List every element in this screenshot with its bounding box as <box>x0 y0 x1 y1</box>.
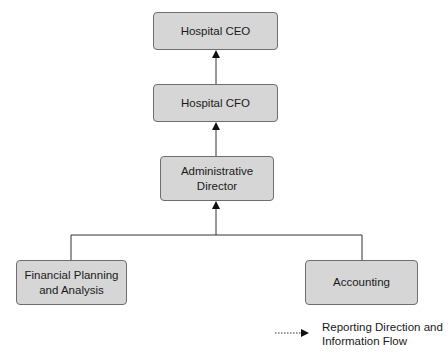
node-administrative-director: Administrative Director <box>160 156 274 201</box>
node-label: Administrative Director <box>175 164 259 194</box>
node-financial-planning: Financial Planning and Analysis <box>16 260 127 305</box>
node-label: Financial Planning and Analysis <box>23 268 120 298</box>
node-hospital-ceo: Hospital CEO <box>153 12 278 50</box>
node-accounting: Accounting <box>305 260 418 305</box>
legend-label: Reporting Direction and Information Flow <box>322 320 448 348</box>
node-label: Hospital CEO <box>181 24 251 39</box>
node-label: Hospital CFO <box>181 96 250 111</box>
node-hospital-cfo: Hospital CFO <box>153 84 278 122</box>
node-label: Accounting <box>333 275 390 290</box>
